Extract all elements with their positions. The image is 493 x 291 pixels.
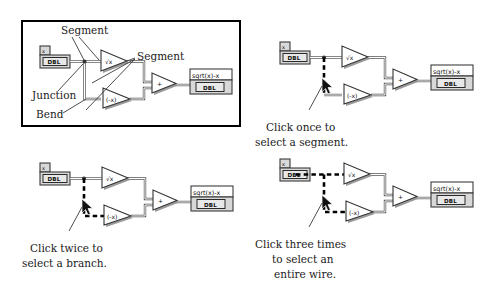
branch-input-terminal[interactable]: x DBL [40,163,70,185]
wire-branch-lower[interactable] [85,62,102,100]
branch-wire-negate-to-add[interactable] [131,205,153,216]
output-terminal[interactable]: sqrt(x)-x DBL [190,69,232,94]
branch-negate-node-glyph: (-x) [107,213,117,220]
branch-square-root-node-glyph: √x [106,175,114,182]
branch-wire-sqrt-to-add[interactable] [127,179,153,200]
figure-canvas: x DBL √x (-x) [0,0,493,291]
wire-input-terminal[interactable]: x DBL [280,159,310,181]
input-terminal[interactable]: x DBL [40,46,70,68]
segment-wire-negate-to-add-highlight [371,84,393,95]
branch-output-terminal[interactable]: sqrt(x)-x DBL [191,186,233,211]
anatomy-wires[interactable] [70,60,192,100]
branch-input-terminal-datatype: DBL [48,176,61,182]
segment-output-terminal-datatype: DBL [444,81,457,87]
annotation-bend-leader [63,99,86,113]
wire-panel-caption: Click three times to select an entire wi… [255,238,346,280]
negate-node-glyph: (-x) [106,96,116,103]
wire-anatomy-panel: x DBL √x (-x) [22,21,240,126]
segment-wire-sqrt-to-add-highlight [367,58,393,79]
wire-negate-to-add[interactable] [130,88,152,99]
annotation-bend-label: Bend [36,108,64,120]
segment-square-root-node[interactable]: √x [342,46,370,69]
branch-square-root-node[interactable]: √x [102,167,130,190]
add-node[interactable]: + [152,73,178,95]
select-segment-panel: x DBL √x (-x) [255,42,473,148]
wire-panel-negate-node-glyph: (-x) [349,209,359,216]
branch-output-terminal-datatype: DBL [204,202,217,208]
branch-caption-leader [69,207,82,231]
wire-input-terminal-label: x [282,161,285,167]
branch-caption: Click twice to select a branch. [22,242,107,269]
segment-caption-line-2: select a segment. [255,136,348,148]
branch-wire-sqrt-to-add-highlight [127,179,153,200]
wire-panel-caption-line-2: to select an [272,253,334,265]
wire-panel-square-root-node[interactable]: √x [344,163,372,186]
wire-branch-lower-highlight [85,62,102,100]
wire-panel-negate-to-add[interactable] [371,201,393,212]
wire-panel-negate-to-add-highlight [371,201,393,212]
branch-output-terminal-label: sqrt(x)-x [193,189,221,197]
wire-panel-output-terminal-label: sqrt(x)-x [433,185,461,193]
segment-caption-leader [309,86,322,110]
annotation-junction-label: Junction [31,89,77,101]
segment-output-terminal-label: sqrt(x)-x [433,68,461,76]
segment-output-terminal[interactable]: sqrt(x)-x DBL [431,65,473,90]
wire-panel-output-terminal[interactable]: sqrt(x)-x DBL [431,182,473,207]
input-terminal-datatype: DBL [48,59,61,65]
segment-square-root-node-glyph: √x [346,54,354,61]
segment-wire-negate-to-add[interactable] [371,84,393,95]
segment-input-terminal-datatype: DBL [288,55,301,61]
segment-input-terminal[interactable]: x DBL [280,42,310,64]
annotation-segment-right-label: Segment [137,50,185,62]
segment-add-node-glyph: + [398,76,403,83]
wire-panel-square-root-node-glyph: √x [348,171,356,178]
branch-input-terminal-label: x [42,165,45,171]
annotation-bend: Bend [36,99,86,120]
wire-negate-to-add-highlight [130,88,152,99]
input-terminal-label: x [42,48,45,54]
wire-panel-caption-line-1: Click three times [255,238,346,250]
branch-negate-node[interactable]: (-x) [104,205,133,227]
wire-panel-output-terminal-datatype: DBL [444,198,457,204]
wire-panel-negate-node[interactable]: (-x) [346,201,375,223]
branch-add-node[interactable]: + [153,190,179,212]
segment-caption: Click once to select a segment. [255,121,348,148]
segment-caption-line-1: Click once to [266,121,335,133]
annotation-junction: Junction [31,64,83,101]
segment-input-terminal-label: x [282,44,285,50]
annotation-segment-top-label: Segment [61,24,109,36]
select-branch-panel: x DBL √x (-x) [22,163,233,269]
branch-caption-line-1: Click twice to [30,242,103,254]
wire-junction-dot [83,60,87,64]
output-terminal-label: sqrt(x)-x [192,72,220,80]
wire-panel-sqrt-to-add-highlight [367,175,393,196]
segment-wire-sqrt-to-add[interactable] [367,58,393,79]
segment-negate-node[interactable]: (-x) [344,84,373,106]
wire-panel-sqrt-to-add[interactable] [367,175,393,196]
wire-panel-add-node-glyph: + [398,193,403,200]
negate-node[interactable]: (-x) [103,88,132,110]
branch-caption-line-2: select a branch. [22,257,107,269]
select-entire-wire-panel: x DBL √x (-x) [255,159,473,280]
segment-add-node[interactable]: + [393,69,419,91]
branch-add-node-glyph: + [158,197,163,204]
output-terminal-datatype: DBL [203,85,216,91]
wire-panel-wires[interactable] [296,175,433,213]
segment-negate-node-glyph: (-x) [347,92,357,99]
wire-panel-caption-leader [309,203,322,227]
add-node-glyph: + [157,80,162,87]
branch-wire-negate-to-add-highlight [131,205,153,216]
wire-panel-add-node[interactable]: + [393,186,419,208]
square-root-node-glyph: √x [105,58,113,65]
wire-panel-caption-line-3: entire wire. [274,268,336,280]
